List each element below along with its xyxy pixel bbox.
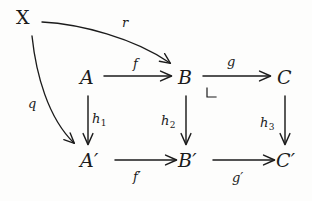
diagram-arrows	[0, 0, 312, 201]
edge-label-q: q	[28, 97, 36, 110]
subscript-h3: 3	[268, 122, 274, 132]
edge-label-r: r	[122, 16, 128, 29]
node-C-prime: C′	[276, 151, 295, 170]
edge-label-f: f	[133, 57, 138, 70]
edge-label-g-prime: g′	[232, 171, 243, 184]
node-A: A	[80, 68, 94, 87]
node-X: X	[16, 8, 30, 27]
node-B-prime: B′	[178, 151, 197, 170]
node-B: B	[178, 68, 192, 87]
node-C: C	[277, 68, 292, 87]
diagram-canvas: X A B C A′ B′ C′ r q f g h1 h2 h3 f′ g′	[0, 0, 312, 201]
edge-label-h2: h2	[161, 114, 175, 130]
arrow-r	[42, 22, 170, 63]
subscript-h2: 2	[169, 120, 175, 130]
edge-label-f-prime: f′	[133, 170, 141, 183]
edge-label-h3: h3	[260, 116, 274, 132]
subscript-h1: 1	[100, 118, 106, 128]
node-A-prime: A′	[80, 151, 98, 170]
arrow-q	[32, 36, 74, 143]
edge-label-g: g	[227, 55, 235, 68]
edge-label-h1: h1	[92, 112, 106, 128]
pullback-corner-icon	[207, 88, 216, 97]
